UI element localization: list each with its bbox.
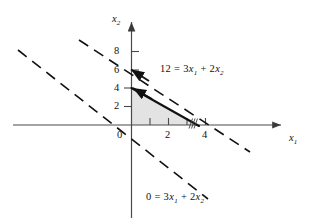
linear-programming-figure: 8 6 4 2 0 2 4 x2 x1 12 = 3x1 + 2x2 0 = 3… (0, 0, 311, 218)
origin-label: 0 (117, 130, 122, 141)
lower-eq-mid: + 2 (178, 191, 196, 202)
lower-eq-var2-sub: 2 (201, 197, 205, 205)
x-axis-label: x1 (289, 133, 297, 146)
lower-line-equation-label: 0 = 3x1 + 2x2 (146, 192, 204, 205)
y-axis-label-sub: 2 (117, 19, 121, 27)
y-tick-label-8: 8 (114, 46, 119, 57)
upper-eq-mid: + 2 (198, 63, 216, 74)
y-tick-label-4: 4 (114, 83, 119, 94)
x-axis-label-sub: 1 (294, 138, 298, 146)
x-tick-label-2: 2 (165, 130, 170, 141)
plot-canvas (0, 0, 311, 218)
y-axis-label: x2 (112, 14, 120, 27)
y-tick-label-2: 2 (114, 101, 119, 112)
upper-eq-var2-sub: 2 (220, 69, 224, 77)
lower-eq-prefix: 0 = 3 (146, 191, 169, 202)
y-tick-label-6: 6 (114, 65, 119, 76)
upper-eq-prefix: 12 = 3 (160, 63, 189, 74)
x-tick-label-4: 4 (202, 130, 207, 141)
upper-line-equation-label: 12 = 3x1 + 2x2 (160, 64, 224, 77)
